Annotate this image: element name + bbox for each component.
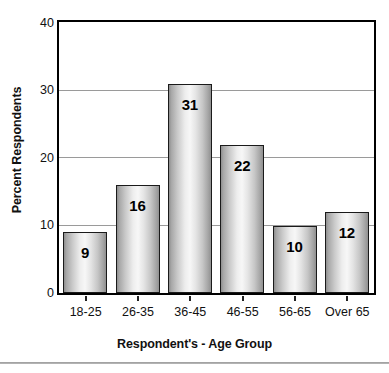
bar: 10 (273, 226, 317, 294)
x-axis-tick-label: 26-35 (122, 306, 154, 320)
x-axis-tick-label: 36-45 (174, 306, 206, 320)
bar: 22 (220, 145, 264, 294)
bar-value-label: 31 (169, 97, 211, 112)
bar: 16 (116, 185, 160, 293)
y-axis-tick-label: 0 (32, 286, 54, 299)
bar-value-label: 16 (117, 198, 159, 213)
x-axis-tick-mark (346, 296, 348, 301)
x-axis-tick-label: 18-25 (70, 306, 102, 320)
bottom-divider (0, 362, 389, 364)
x-axis-tick-label: Over 65 (325, 306, 369, 320)
x-axis-tick-label: 56-65 (279, 306, 311, 320)
y-axis-tick-labels: 010203040 (28, 0, 54, 373)
x-axis-tick-mark (137, 296, 139, 301)
bar: 31 (168, 84, 212, 293)
x-axis-tick-mark (189, 296, 191, 301)
bar-value-label: 9 (64, 245, 106, 260)
bar-value-label: 12 (326, 225, 368, 240)
bar-chart: Percent Respondents 010203040 9163122101… (0, 0, 389, 373)
y-axis-tick-label: 10 (32, 219, 54, 232)
bar-value-label: 22 (221, 158, 263, 173)
x-axis-tick-mark (294, 296, 296, 301)
x-axis-tick-mark (242, 296, 244, 301)
plot-area: 91631221012 (57, 20, 376, 295)
y-axis-tick-label: 30 (32, 84, 54, 97)
x-axis-tick-label: 46-55 (227, 306, 259, 320)
bar-value-label: 10 (274, 239, 316, 254)
y-axis-title-text: Percent Respondents (10, 87, 24, 214)
bar: 12 (325, 212, 369, 293)
bars-group: 91631221012 (59, 22, 374, 293)
x-axis-title: Respondent's - Age Group (0, 337, 389, 351)
y-axis-tick-label: 40 (32, 16, 54, 29)
x-axis-tick-mark (85, 296, 87, 301)
y-axis-tick-label: 20 (32, 151, 54, 164)
bar: 9 (63, 232, 107, 293)
